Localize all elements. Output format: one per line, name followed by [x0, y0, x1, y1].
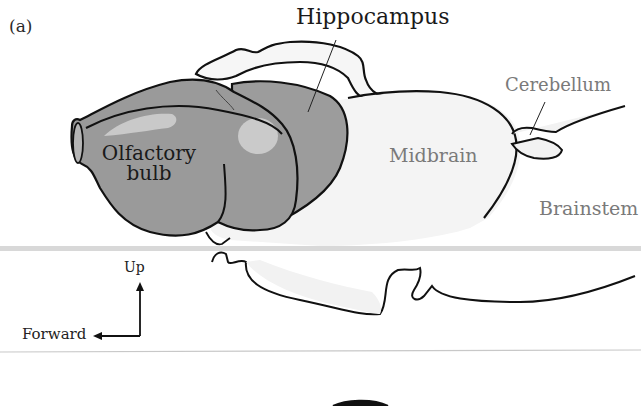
panel-label: (a)	[9, 18, 32, 35]
lobe-highlight	[238, 118, 278, 154]
scan-fold-line	[0, 246, 641, 251]
scan-divider-line	[0, 350, 641, 352]
next-figure-fragment	[333, 401, 388, 406]
hippocampus-label: Hippocampus	[296, 6, 449, 28]
cerebellum-label: Cerebellum	[505, 76, 611, 94]
orientation-axes	[93, 282, 144, 340]
cerebellum-shape	[512, 106, 625, 159]
up-arrow-icon	[136, 282, 144, 291]
brainstem-label: Brainstem	[539, 199, 638, 218]
olfactory-bulb-label-line1: Olfactory	[94, 143, 204, 163]
olfactory-bulb-tip	[73, 123, 83, 163]
brain-diagram-figure: (a) Hippocampus Olfactory bulb Midbrain …	[0, 0, 641, 406]
olfactory-bulb-label-line2: bulb	[94, 163, 204, 183]
forward-arrow-icon	[93, 332, 102, 340]
pons-shape	[246, 260, 381, 314]
up-direction-label: Up	[124, 260, 145, 274]
midbrain-label: Midbrain	[389, 146, 478, 165]
forward-direction-label: Forward	[22, 327, 86, 342]
olfactory-bulb-label: Olfactory bulb	[94, 143, 204, 183]
